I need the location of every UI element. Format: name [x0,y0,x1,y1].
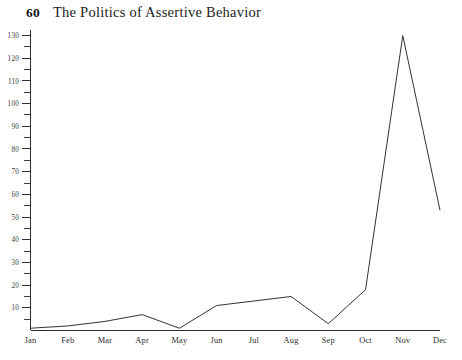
x-axis-tick-label: Oct [359,336,372,345]
y-axis-tick-label: 90 [11,123,19,131]
y-axis-major-ticks [22,36,31,308]
line-chart-figure: 102030405060708090100110120130 JanFebMar… [0,26,462,346]
x-axis-tick-label: Jun [211,336,224,345]
chart-canvas: 102030405060708090100110120130 JanFebMar… [0,26,462,346]
x-axis-tick-label: Aug [284,336,300,345]
x-axis-tick-labels: JanFebMarAprMayJunJulAugSepOctNovDec [25,336,448,345]
data-series-line [31,36,441,329]
y-axis-tick-label: 120 [8,55,20,63]
page-title: The Politics of Assertive Behavior [53,4,261,21]
running-head: 60 The Politics of Assertive Behavior [26,4,261,24]
y-axis-tick-label: 70 [11,168,19,176]
x-axis-tick-label: Jan [25,336,37,345]
y-axis-tick-label: 110 [8,78,19,86]
x-axis-tick-label: Mar [98,336,113,345]
y-axis-tick-label: 80 [11,146,19,154]
x-axis-tick-label: May [171,336,188,345]
page-number: 60 [26,5,40,21]
x-axis-tick-label: Dec [433,336,447,345]
y-axis-tick-label: 50 [11,214,19,222]
y-axis-tick-label: 100 [8,100,20,108]
y-axis-tick-label: 30 [11,259,19,267]
y-axis-tick-label: 40 [11,236,19,244]
y-axis-tick-label: 130 [8,32,20,40]
x-axis-tick-label: Sep [322,336,335,345]
y-axis-tick-label: 60 [11,191,19,199]
x-axis-tick-label: Feb [61,336,74,345]
y-axis-tick-labels: 102030405060708090100110120130 [8,32,20,312]
y-axis-minor-ticks [24,47,31,319]
y-axis-tick-label: 10 [11,304,19,312]
x-axis-tick-label: Nov [395,336,411,345]
x-axis-tick-label: Jul [249,336,260,345]
y-axis-tick-label: 20 [11,282,19,290]
x-axis-tick-label: Apr [135,336,149,345]
